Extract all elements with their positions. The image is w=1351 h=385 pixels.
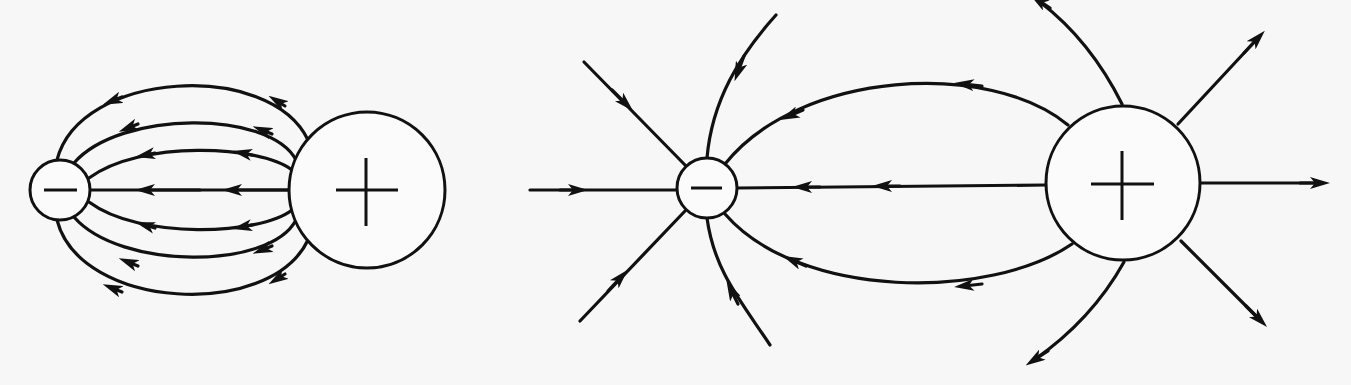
positive-charge [1046, 106, 1200, 260]
arrow-icon [1034, 351, 1048, 360]
arrow-icon [277, 101, 285, 106]
arrow-icon [112, 97, 122, 101]
arrow-icon [242, 153, 252, 155]
arrow-icon [112, 288, 122, 292]
field-line [707, 218, 770, 345]
left-figure [30, 86, 445, 294]
arrow-icon [1244, 38, 1258, 53]
arrow-icon [612, 90, 626, 104]
field-line [89, 150, 292, 178]
field-line [89, 202, 292, 230]
negative-charge [30, 160, 90, 220]
diagram-canvas [0, 0, 1351, 385]
arrow-icon [128, 262, 138, 266]
field-line [584, 62, 686, 166]
arrow-icon [608, 277, 621, 291]
positive-charge [289, 112, 445, 268]
arrow-icon [964, 284, 982, 286]
field-line [725, 214, 1072, 283]
field-line [580, 211, 685, 321]
field-line [725, 83, 1068, 164]
right-figure [530, 0, 1320, 360]
arrow-icon [1246, 306, 1260, 320]
field-lines-diagram: Field lines between a small negative cha… [0, 0, 1351, 385]
field-line [1040, 2, 1122, 104]
arrow-icon [277, 274, 285, 279]
field-line [1034, 262, 1124, 360]
arrow-icon [128, 124, 138, 128]
negative-charge [677, 158, 737, 218]
arrow-icon [242, 225, 252, 227]
arrow-icon [145, 153, 155, 155]
arrow-icon [964, 84, 982, 86]
field-line [707, 15, 776, 158]
